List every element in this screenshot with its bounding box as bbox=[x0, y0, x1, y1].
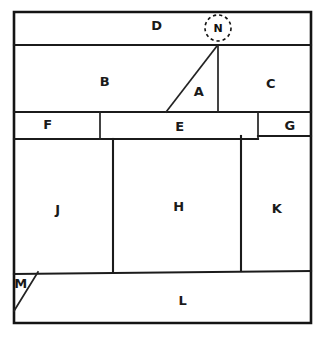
room-label-l: L bbox=[179, 293, 188, 308]
room-label-e: E bbox=[175, 119, 184, 134]
room-label-m: M bbox=[14, 276, 27, 291]
wall-a-b-diagonal bbox=[166, 46, 217, 112]
room-label-k: K bbox=[272, 201, 283, 216]
room-label-c: C bbox=[266, 76, 276, 91]
room-label-d: D bbox=[151, 18, 162, 33]
wall-l-row-top bbox=[14, 271, 311, 274]
floor-plan-canvas: D B A C F E G J H K M L N bbox=[0, 0, 324, 337]
room-label-g: G bbox=[284, 118, 295, 133]
room-label-b: B bbox=[100, 74, 110, 89]
node-label-n: N bbox=[213, 22, 222, 35]
building-outline bbox=[14, 12, 311, 323]
room-label-f: F bbox=[43, 117, 52, 132]
room-label-a: A bbox=[194, 84, 205, 99]
floor-plan-diagram: D B A C F E G J H K M L N bbox=[0, 0, 324, 337]
room-label-h: H bbox=[173, 199, 184, 214]
room-label-j: J bbox=[54, 202, 60, 217]
